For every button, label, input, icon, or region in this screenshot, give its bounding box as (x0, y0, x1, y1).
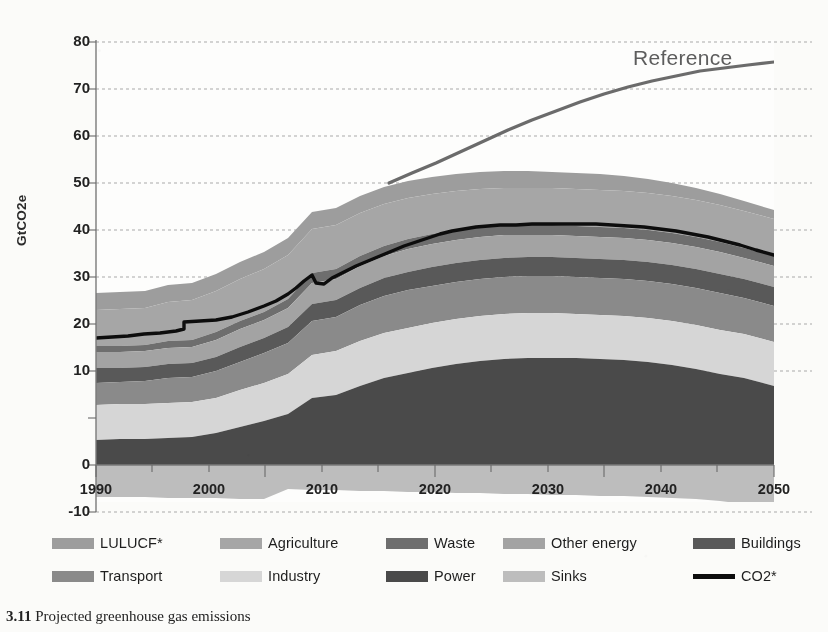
legend-label-industry: Industry (268, 568, 320, 584)
y-tick-80: 80 (46, 32, 90, 49)
legend-line-co2-icon (693, 574, 735, 579)
legend-label-power: Power (434, 568, 476, 584)
x-tick-1990: 1990 (80, 481, 112, 497)
y-tick-20: 20 (46, 314, 90, 331)
legend-swatch-transport-icon (52, 571, 94, 582)
y-tick-40: 40 (46, 220, 90, 237)
legend-item-sinks[interactable]: Sinks (503, 563, 587, 589)
y-tick-30: 30 (46, 267, 90, 284)
legend-swatch-industry-icon (220, 571, 262, 582)
y-tick-50: 50 (46, 173, 90, 190)
legend-swatch-agriculture-icon (220, 538, 262, 549)
figure-caption: 3.11 Projected greenhouse gas emissions (6, 608, 816, 625)
legend-label-waste: Waste (434, 535, 475, 551)
y-axis-title: GtCO2e (14, 195, 29, 246)
x-tick-2020: 2020 (419, 481, 451, 497)
y-tick-70: 70 (46, 79, 90, 96)
figure-container: GtCO2e 80 70 60 50 40 30 20 10 0 -10 199… (0, 0, 828, 632)
x-tick-2050: 2050 (758, 481, 790, 497)
figure-caption-number: 3.11 (6, 608, 31, 624)
legend-label-other-energy: Other energy (551, 535, 637, 551)
legend-item-transport[interactable]: Transport (52, 563, 162, 589)
legend-swatch-waste-icon (386, 538, 428, 549)
y-axis-tick-labels: 80 70 60 50 40 30 20 10 0 -10 (42, 0, 90, 560)
legend-item-other-energy[interactable]: Other energy (503, 530, 637, 556)
legend-swatch-power-icon (386, 571, 428, 582)
legend-item-waste[interactable]: Waste (386, 530, 475, 556)
legend-row-2: Transport Industry Power Sinks CO2* (52, 563, 814, 589)
legend-item-power[interactable]: Power (386, 563, 476, 589)
legend-swatch-other-energy-icon (503, 538, 545, 549)
legend-row-1: LULUCF* Agriculture Waste Other energy B… (52, 530, 814, 556)
legend-label-lulucf: LULUCF* (100, 535, 163, 551)
x-tick-2030: 2030 (532, 481, 564, 497)
x-tick-2010: 2010 (306, 481, 338, 497)
legend-swatch-sinks-icon (503, 571, 545, 582)
legend-item-co2[interactable]: CO2* (693, 563, 777, 589)
legend-swatch-buildings-icon (693, 538, 735, 549)
legend-label-buildings: Buildings (741, 535, 801, 551)
y-tick-60: 60 (46, 126, 90, 143)
legend-label-co2: CO2* (741, 568, 777, 584)
y-tick-10: 10 (46, 361, 90, 378)
legend-item-lulucf[interactable]: LULUCF* (52, 530, 163, 556)
reference-annotation: Reference (633, 46, 733, 70)
x-tick-2040: 2040 (645, 481, 677, 497)
legend-item-agriculture[interactable]: Agriculture (220, 530, 338, 556)
y-tick-0: 0 (46, 455, 90, 472)
legend-label-transport: Transport (100, 568, 162, 584)
legend-label-agriculture: Agriculture (268, 535, 338, 551)
legend-label-sinks: Sinks (551, 568, 587, 584)
legend-item-buildings[interactable]: Buildings (693, 530, 801, 556)
figure-caption-text: Projected greenhouse gas emissions (35, 608, 250, 624)
x-axis-tick-labels: 1990200020102020203020402050 (0, 481, 828, 505)
chart-legend: LULUCF* Agriculture Waste Other energy B… (52, 530, 814, 594)
legend-swatch-lulucf-icon (52, 538, 94, 549)
x-tick-2000: 2000 (193, 481, 225, 497)
legend-item-industry[interactable]: Industry (220, 563, 320, 589)
